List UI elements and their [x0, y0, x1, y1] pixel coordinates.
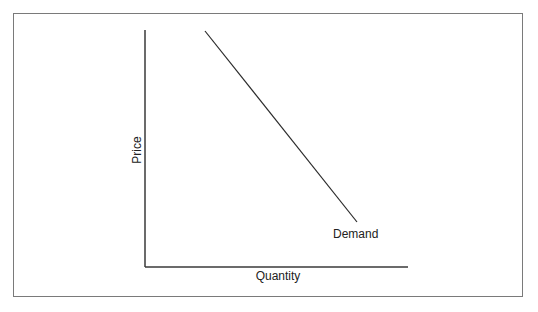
- demand-curve: [205, 31, 357, 222]
- x-axis-label: Quantity: [256, 269, 301, 283]
- y-axis-label: Price: [130, 136, 144, 163]
- demand-chart: [0, 0, 538, 312]
- demand-curve-label: Demand: [333, 227, 378, 241]
